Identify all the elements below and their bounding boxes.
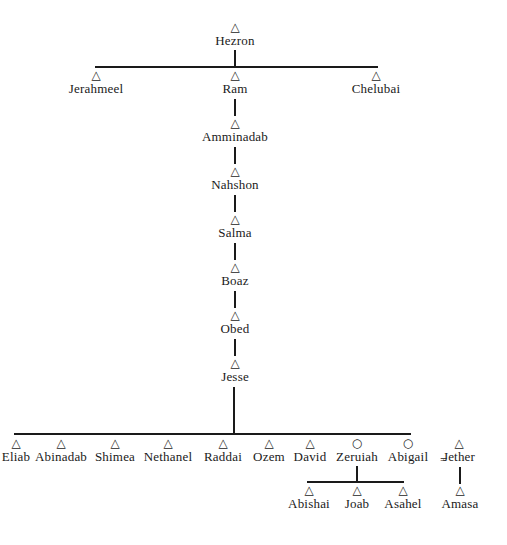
male-symbol-icon: △ bbox=[253, 437, 285, 449]
person-name: Chelubai bbox=[352, 81, 401, 96]
node-eliab: △ Eliab bbox=[2, 437, 30, 464]
connector-line bbox=[234, 147, 236, 164]
person-name: Asahel bbox=[384, 496, 421, 511]
person-name: Shimea bbox=[95, 449, 135, 464]
node-chelubai: △ Chelubai bbox=[352, 69, 401, 96]
connector-line bbox=[234, 99, 236, 116]
male-symbol-icon: △ bbox=[221, 357, 249, 369]
person-name: Ram bbox=[222, 81, 247, 96]
node-hezron: △ Hezron bbox=[215, 21, 254, 48]
female-symbol-icon: ○ bbox=[388, 437, 428, 449]
node-amminadab: △ Amminadab bbox=[202, 117, 268, 144]
node-asahel: △ Asahel bbox=[384, 484, 421, 511]
person-name: Nethanel bbox=[144, 449, 193, 464]
node-abinadab: △ Abinadab bbox=[35, 437, 87, 464]
node-raddai: △ Raddai bbox=[204, 437, 242, 464]
male-symbol-icon: △ bbox=[202, 117, 268, 129]
person-name: Amasa bbox=[441, 496, 478, 511]
male-symbol-icon: △ bbox=[211, 165, 259, 177]
person-name: Salma bbox=[218, 225, 252, 240]
node-joab: △ Joab bbox=[345, 484, 370, 511]
person-name: Joab bbox=[345, 496, 370, 511]
male-symbol-icon: △ bbox=[222, 69, 247, 81]
node-shimea: △ Shimea bbox=[95, 437, 135, 464]
male-symbol-icon: △ bbox=[218, 213, 252, 225]
person-name: Eliab bbox=[2, 449, 30, 464]
node-jerahmeel: △ Jerahmeel bbox=[69, 69, 124, 96]
node-abishai: △ Abishai bbox=[288, 484, 330, 511]
person-name: Zeruiah bbox=[336, 449, 378, 464]
connector-line bbox=[459, 467, 461, 484]
male-symbol-icon: △ bbox=[294, 437, 327, 449]
male-symbol-icon: △ bbox=[345, 484, 370, 496]
node-abigail: ○ Abigail bbox=[388, 437, 428, 464]
person-name: Raddai bbox=[204, 449, 242, 464]
sibling-line bbox=[14, 433, 411, 435]
person-name: Hezron bbox=[215, 33, 254, 48]
male-symbol-icon: △ bbox=[2, 437, 30, 449]
person-name: Jether bbox=[443, 449, 475, 464]
person-name: Jesse bbox=[221, 369, 249, 384]
node-zeruiah: ○ Zeruiah bbox=[336, 437, 378, 464]
male-symbol-icon: △ bbox=[35, 437, 87, 449]
person-name: Ozem bbox=[253, 449, 285, 464]
connector-line bbox=[234, 50, 236, 67]
male-symbol-icon: △ bbox=[69, 69, 124, 81]
male-symbol-icon: △ bbox=[221, 261, 249, 273]
node-david: △ David bbox=[294, 437, 327, 464]
person-name: Amminadab bbox=[202, 129, 268, 144]
male-symbol-icon: △ bbox=[221, 309, 250, 321]
node-jether: △ Jether bbox=[443, 437, 475, 464]
person-name: Boaz bbox=[221, 273, 249, 288]
male-symbol-icon: △ bbox=[288, 484, 330, 496]
node-jesse: △ Jesse bbox=[221, 357, 249, 384]
connector-line bbox=[234, 243, 236, 260]
node-salma: △ Salma bbox=[218, 213, 252, 240]
node-boaz: △ Boaz bbox=[221, 261, 249, 288]
node-amasa: △ Amasa bbox=[441, 484, 478, 511]
node-nethanel: △ Nethanel bbox=[144, 437, 193, 464]
node-ram: △ Ram bbox=[222, 69, 247, 96]
person-name: Nahshon bbox=[211, 177, 259, 192]
node-ozem: △ Ozem bbox=[253, 437, 285, 464]
male-symbol-icon: △ bbox=[384, 484, 421, 496]
person-name: David bbox=[294, 449, 327, 464]
male-symbol-icon: △ bbox=[95, 437, 135, 449]
node-obed: △ Obed bbox=[221, 309, 250, 336]
connector-line bbox=[356, 466, 358, 482]
connector-line bbox=[234, 195, 236, 212]
male-symbol-icon: △ bbox=[204, 437, 242, 449]
male-symbol-icon: △ bbox=[441, 484, 478, 496]
person-name: Abishai bbox=[288, 496, 330, 511]
male-symbol-icon: △ bbox=[352, 69, 401, 81]
person-name: Abinadab bbox=[35, 449, 87, 464]
connector-line bbox=[234, 339, 236, 356]
node-nahshon: △ Nahshon bbox=[211, 165, 259, 192]
connector-line bbox=[233, 387, 235, 434]
female-symbol-icon: ○ bbox=[336, 437, 378, 449]
male-symbol-icon: △ bbox=[215, 21, 254, 33]
person-name: Abigail bbox=[388, 449, 428, 464]
male-symbol-icon: △ bbox=[443, 437, 475, 449]
person-name: Jerahmeel bbox=[69, 81, 124, 96]
connector-line bbox=[234, 291, 236, 308]
male-symbol-icon: △ bbox=[144, 437, 193, 449]
person-name: Obed bbox=[221, 321, 250, 336]
